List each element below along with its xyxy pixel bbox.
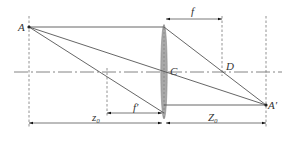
label-a-prime: A′: [267, 99, 278, 111]
ray-parallel-refracted: [164, 27, 266, 105]
label-d: D: [225, 60, 234, 72]
label-z0: z₀: [91, 111, 100, 123]
label-c: C: [170, 65, 178, 77]
lens-diagram: A A′ C D f f′ z₀ Z₀: [0, 0, 292, 142]
label-a: A: [17, 21, 25, 33]
label-f-top: f: [191, 5, 196, 17]
label-f-prime: f′: [133, 101, 139, 113]
point-a: [27, 25, 30, 28]
ray-focal: [29, 27, 164, 113]
label-Z0: Z₀: [208, 111, 218, 123]
